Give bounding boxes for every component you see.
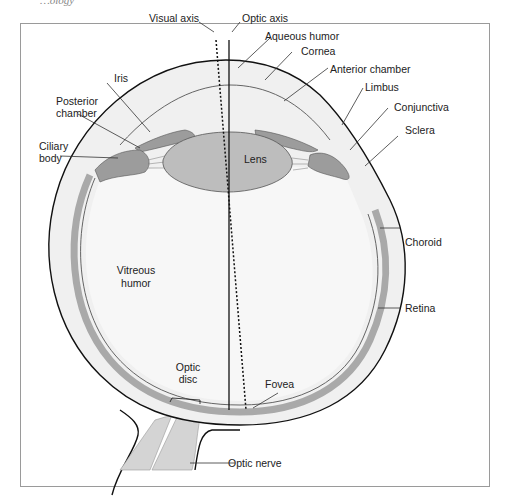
label-limbus: Limbus	[365, 81, 399, 93]
label-visual-axis: Visual axis	[149, 12, 199, 24]
label-optic-disc-2: disc	[179, 373, 198, 385]
label-posterior-chamber-1: Posterior	[56, 95, 99, 107]
lens	[163, 132, 292, 192]
label-aqueous-humor: Aqueous humor	[265, 30, 340, 42]
label-cornea: Cornea	[301, 45, 336, 57]
label-optic-disc-1: Optic	[176, 361, 201, 373]
label-sclera: Sclera	[405, 124, 435, 136]
label-fovea: Fovea	[265, 378, 294, 390]
label-choroid: Choroid	[405, 236, 442, 248]
label-optic-axis: Optic axis	[242, 12, 288, 24]
label-posterior-chamber-2: chamber	[56, 107, 97, 119]
label-anterior-chamber: Anterior chamber	[330, 63, 411, 75]
label-iris: Iris	[114, 72, 128, 84]
label-ciliary-body-2: body	[39, 152, 63, 164]
label-vitreous-humor-1: Vitreous	[117, 264, 155, 276]
label-vitreous-humor-2: humor	[121, 277, 151, 289]
label-retina: Retina	[405, 302, 436, 314]
eye-diagram: Visual axis Optic axis Aqueous humor Cor…	[0, 0, 505, 500]
label-optic-nerve: Optic nerve	[228, 457, 282, 469]
label-conjunctiva: Conjunctiva	[394, 101, 449, 113]
label-ciliary-body-1: Ciliary	[39, 140, 69, 152]
label-lens: Lens	[244, 153, 267, 165]
